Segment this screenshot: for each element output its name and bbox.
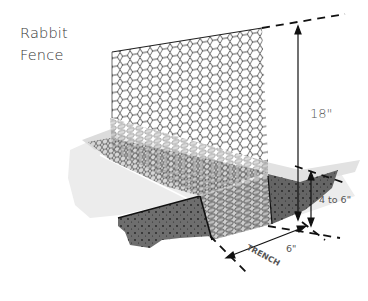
height-label: 18" — [310, 106, 333, 121]
width-label: 6" — [286, 243, 296, 254]
trench-label: TRENCH — [245, 243, 281, 268]
rabbit-fence-diagram: Rabbit Fence — [0, 0, 368, 301]
fence-illustration: 18" 4 to 6" TRENCH 6" — [0, 0, 368, 301]
depth-label: 4 to 6" — [319, 194, 351, 205]
